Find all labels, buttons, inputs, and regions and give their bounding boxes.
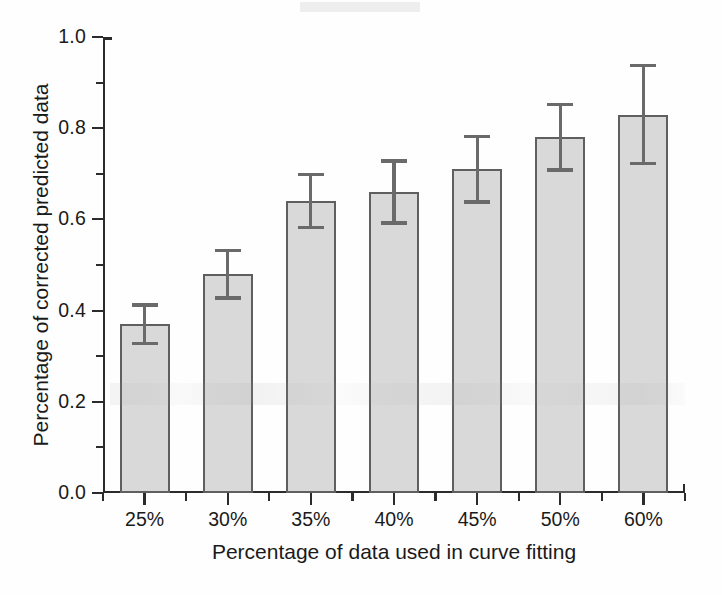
x-tick-minor xyxy=(434,493,436,501)
x-tick-major xyxy=(476,493,478,505)
y-tick-label: 0.2 xyxy=(28,392,86,412)
x-tick-minor xyxy=(102,493,104,501)
x-tick-major xyxy=(310,493,312,505)
x-tick-major xyxy=(642,493,644,505)
bar xyxy=(120,324,170,493)
y-tick-major xyxy=(92,218,103,220)
error-bar-line xyxy=(476,136,479,202)
y-tick-major xyxy=(92,127,103,129)
x-tick-minor xyxy=(684,493,686,501)
bar xyxy=(286,201,336,493)
y-axis-top-stub xyxy=(103,37,112,40)
error-bar-line xyxy=(642,66,645,164)
y-tick-minor xyxy=(96,264,103,266)
error-bar-line xyxy=(143,305,146,343)
bar-chart-figure: Percentage of corrected predicted data 0… xyxy=(0,0,722,595)
bar xyxy=(535,137,585,493)
y-tick-label: 0.8 xyxy=(28,118,86,138)
x-tick-major xyxy=(143,493,145,505)
error-bar-cap-lower xyxy=(298,226,324,229)
x-tick-label: 30% xyxy=(183,508,273,530)
x-tick-minor xyxy=(518,493,520,501)
x-tick-minor xyxy=(185,493,187,501)
x-tick-label: 35% xyxy=(266,508,356,530)
y-tick-major xyxy=(92,36,103,38)
bar xyxy=(618,115,668,493)
x-tick-minor xyxy=(268,493,270,501)
error-bar-cap-upper xyxy=(547,103,573,106)
error-bar-line xyxy=(226,250,229,297)
error-bar-cap-lower xyxy=(381,221,407,224)
y-tick-minor xyxy=(96,82,103,84)
y-tick-label: 0.4 xyxy=(28,301,86,321)
error-bar-cap-upper xyxy=(630,64,656,67)
error-bar-cap-lower xyxy=(464,200,490,203)
x-tick-major xyxy=(227,493,229,505)
y-tick-label: 0.0 xyxy=(28,483,86,503)
x-tick-label: 45% xyxy=(432,508,522,530)
error-bar-cap-upper xyxy=(381,159,407,162)
y-tick-minor xyxy=(96,446,103,448)
bar xyxy=(369,192,419,493)
y-tick-minor xyxy=(96,355,103,357)
error-bar-cap-upper xyxy=(298,173,324,176)
x-tick-minor xyxy=(351,493,353,501)
x-tick-label: 60% xyxy=(598,508,688,530)
x-axis-end-cap xyxy=(683,484,686,493)
error-bar-cap-lower xyxy=(547,168,573,171)
y-tick-label: 0.6 xyxy=(28,209,86,229)
x-tick-major xyxy=(559,493,561,505)
error-bar-line xyxy=(392,161,395,223)
x-tick-minor xyxy=(601,493,603,501)
scan-artifact-top xyxy=(300,2,420,12)
error-bar-cap-upper xyxy=(215,249,241,252)
y-tick-major xyxy=(92,401,103,403)
error-bar-cap-lower xyxy=(215,296,241,299)
y-tick-label: 1.0 xyxy=(28,27,86,47)
error-bar-cap-upper xyxy=(132,303,158,306)
x-axis-title: Percentage of data used in curve fitting xyxy=(103,539,685,565)
error-bar-cap-lower xyxy=(630,162,656,165)
bar xyxy=(452,169,502,493)
bar xyxy=(203,274,253,493)
y-tick-label-group: 0.00.20.40.60.81.0 xyxy=(22,0,86,595)
error-bar-cap-upper xyxy=(464,135,490,138)
x-tick-major xyxy=(393,493,395,505)
error-bar-line xyxy=(309,175,312,228)
error-bar-cap-lower xyxy=(132,342,158,345)
error-bar-line xyxy=(559,104,562,170)
x-tick-label: 25% xyxy=(100,508,190,530)
x-tick-label: 50% xyxy=(515,508,605,530)
y-tick-minor xyxy=(96,173,103,175)
x-tick-label: 40% xyxy=(349,508,439,530)
y-tick-major xyxy=(92,310,103,312)
